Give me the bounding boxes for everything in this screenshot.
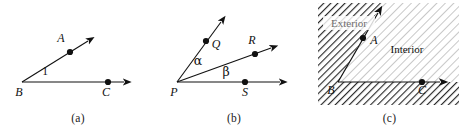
label-r: R (247, 33, 256, 47)
label-exterior: Exterior (331, 17, 367, 29)
ray-pq (177, 22, 221, 82)
caption-panel-a: (a) (0, 112, 156, 124)
label-c: C (102, 85, 111, 99)
point-q-dot (203, 38, 209, 44)
label-a: A (369, 33, 378, 47)
caption-panel-c: (c) (312, 112, 467, 124)
panel-a: A B C 1 (a) (0, 0, 156, 138)
geometry-figure: A B C 1 (a) (0, 0, 467, 138)
panel-c-diagram: Exterior Interior A B C (312, 0, 467, 112)
label-beta: β (222, 64, 229, 79)
point-r-dot (252, 51, 258, 57)
label-alpha: α (194, 53, 203, 68)
ray-ba (22, 41, 88, 82)
point-a-dot (360, 35, 366, 41)
label-b: B (15, 85, 23, 99)
label-c: C (418, 83, 427, 97)
label-interior: Interior (391, 43, 424, 55)
label-angle-1: 1 (42, 65, 48, 77)
caption-panel-b: (b) (156, 112, 312, 124)
panel-b: Q R S P α β (b) (156, 0, 312, 138)
label-q: Q (212, 37, 221, 51)
panel-c: Exterior Interior A B C (c) (312, 0, 467, 138)
label-a: A (56, 31, 65, 45)
panel-a-diagram: A B C 1 (0, 0, 156, 112)
label-s: S (242, 85, 248, 99)
point-a-dot (67, 49, 73, 55)
panel-b-diagram: Q R S P α β (156, 0, 312, 112)
label-b: B (327, 83, 335, 97)
label-p: P (169, 85, 178, 99)
